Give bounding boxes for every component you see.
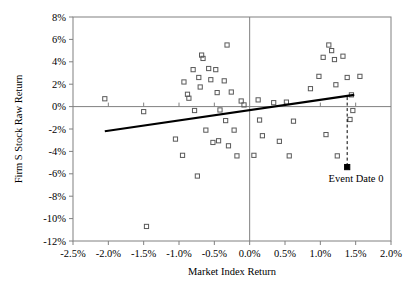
- x-tick-label: 1.5%: [345, 248, 367, 259]
- y-tick-label: 8%: [52, 12, 66, 23]
- y-tick-label: -6%: [49, 168, 67, 179]
- y-tick-label: -10%: [43, 213, 66, 224]
- scatter-chart: -2.5%-2.0%-1.5%-1.0%-0.5%0.0%0.5%1.0%1.5…: [0, 0, 420, 287]
- chart-canvas: -2.5%-2.0%-1.5%-1.0%-0.5%0.0%0.5%1.0%1.5…: [0, 0, 420, 287]
- x-tick-label: -2.0%: [96, 248, 122, 259]
- y-tick-label: 6%: [52, 34, 66, 45]
- x-tick-label: 2.0%: [380, 248, 402, 259]
- y-tick-label: -12%: [43, 236, 66, 247]
- y-tick-label: -8%: [49, 191, 67, 202]
- x-tick-label: 0.0%: [239, 248, 261, 259]
- y-tick-label: 2%: [52, 79, 66, 90]
- x-tick-label: 0.5%: [274, 248, 296, 259]
- x-tick-label: -1.0%: [166, 248, 192, 259]
- y-tick-label: -2%: [49, 124, 67, 135]
- event-date-marker: [345, 164, 350, 169]
- x-tick-label: 1.0%: [309, 248, 331, 259]
- y-tick-label: -4%: [49, 146, 67, 157]
- x-axis-title: Market Index Return: [188, 266, 277, 277]
- y-axis-title: Firm S Stock Raw Return: [13, 74, 24, 183]
- y-tick-label: 4%: [52, 56, 66, 67]
- y-tick-label: 0%: [52, 101, 66, 112]
- x-tick-label: -0.5%: [202, 248, 228, 259]
- x-tick-label: -1.5%: [131, 248, 157, 259]
- x-tick-label: -2.5%: [60, 248, 86, 259]
- event-date-label: Event Date 0: [329, 173, 384, 184]
